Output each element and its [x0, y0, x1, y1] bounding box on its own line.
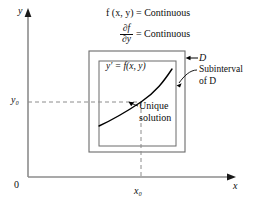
subinterval-label-line2: of D — [199, 77, 216, 87]
fraction-numerator: ∂f — [121, 24, 132, 34]
unique-solution-label-line2: solution — [139, 113, 171, 124]
domain-label: D — [199, 53, 206, 64]
origin-label: 0 — [14, 180, 19, 191]
y-axis-label: y — [18, 6, 22, 17]
x-axis-label: x — [233, 181, 237, 192]
fraction-denominator: ∂y — [120, 35, 133, 45]
x0-tick-label: x₀ — [134, 186, 142, 197]
continuity-equation-f: f (x, y) = Continuous — [106, 8, 190, 19]
continuity-equation-partial: ∂f ∂y = Continuous — [120, 24, 190, 44]
subinterval-label-line1: Subinterval — [199, 65, 243, 75]
ode-equation-label: y′ = f(x, y) — [106, 62, 146, 72]
unique-solution-label-line1: Unique — [139, 101, 168, 112]
y0-tick-label: y₀ — [11, 95, 19, 106]
partial-derivative-fraction: ∂f ∂y — [120, 24, 133, 44]
partial-equation-rhs: = Continuous — [136, 29, 190, 40]
